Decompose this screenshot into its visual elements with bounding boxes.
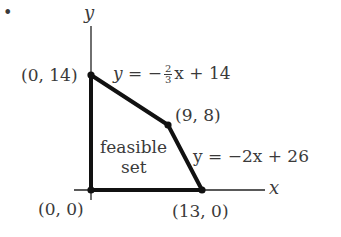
vertex-0-14	[87, 71, 94, 78]
fraction-denominator: 3	[164, 75, 172, 85]
eq-rest: x + 14	[174, 63, 230, 83]
vertex-0-0	[87, 186, 94, 193]
vertex-label-13-0: (13, 0)	[172, 203, 229, 220]
x-axis-label: x	[269, 179, 279, 197]
eq-equals: =	[128, 63, 142, 83]
vertex-13-0	[198, 186, 205, 193]
eq-sign: −	[148, 63, 162, 83]
feasible-set-diagram: • y x (0, 14) (9, 8) (13, 0) (0, 0) y = …	[0, 0, 341, 237]
vertex-9-8	[164, 121, 171, 128]
vertex-label-0-14: (0, 14)	[21, 67, 78, 84]
eq-lhs: y	[113, 63, 123, 83]
vertex-label-9-8: (9, 8)	[175, 107, 221, 124]
y-axis-label: y	[84, 4, 94, 22]
eq-fraction: 23	[164, 64, 172, 85]
upper-constraint-equation: y = −23x + 14	[113, 64, 231, 85]
lower-constraint-equation: y = −2x + 26	[193, 148, 309, 165]
bullet-marker: •	[3, 5, 12, 21]
region-label-line1: feasible	[100, 139, 167, 156]
vertex-label-0-0: (0, 0)	[38, 201, 84, 218]
region-label-line2: set	[121, 159, 147, 176]
